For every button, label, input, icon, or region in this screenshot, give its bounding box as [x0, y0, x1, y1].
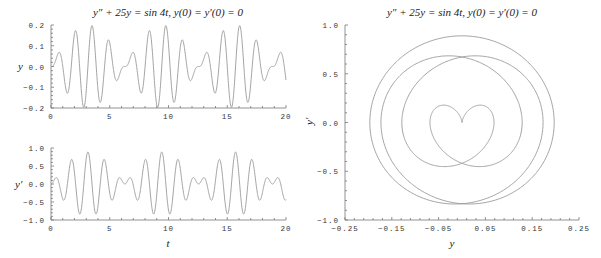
y-axis-label-top: y — [17, 60, 23, 72]
x-axis-label-bottom: t — [166, 237, 170, 249]
y-tick-label: 0.2 — [28, 22, 45, 30]
right-title: y″ + 25y = sin 4t, y(0) = y′(0) = 0 — [386, 6, 538, 19]
y-tick-label: 0.0 — [28, 64, 45, 72]
left-title: y″ + 25y = sin 4t, y(0) = y′(0) = 0 — [92, 6, 244, 19]
y-axis-label-right: y′ — [303, 117, 315, 126]
y-tick-label: −0.2 — [23, 105, 45, 113]
y-tick-label: −0.5 — [23, 199, 45, 207]
x-tick-label: 20 — [280, 225, 291, 233]
x-tick-label: 15 — [222, 225, 233, 233]
x-tick-label: −0.15 — [378, 225, 406, 233]
x-tick-label: 0.25 — [568, 225, 590, 233]
yprime-plot-curve — [51, 152, 286, 214]
y-tick-label: −1.0 — [23, 217, 45, 225]
x-tick-label: 5 — [107, 225, 113, 233]
x-tick-label: 0 — [48, 225, 54, 233]
figure: 0.20.10.0−0.1−0.2051015201.00.50.0−0.5−1… — [0, 0, 601, 258]
phase-plot-curve — [370, 36, 554, 204]
x-tick-label: −0.25 — [331, 225, 359, 233]
y-tick-label: 0.0 — [322, 120, 339, 128]
x-tick-label: 20 — [280, 113, 291, 121]
x-tick-label: 0.15 — [521, 225, 543, 233]
x-tick-label: 5 — [107, 113, 113, 121]
y-tick-label: −1.0 — [317, 217, 339, 225]
y-plot-curve — [51, 26, 286, 108]
y-tick-label: 0.1 — [28, 43, 45, 51]
x-tick-label: 10 — [163, 225, 174, 233]
x-tick-label: 10 — [163, 113, 174, 121]
y-tick-label: −0.5 — [317, 168, 339, 176]
x-tick-label: 0 — [48, 113, 54, 121]
y-tick-label: −0.1 — [23, 84, 45, 92]
x-tick-label: −0.05 — [425, 225, 453, 233]
y-tick-label: 1.0 — [322, 22, 339, 30]
x-axis-label-right: y — [449, 237, 455, 249]
y-tick-label: 0.0 — [28, 181, 45, 189]
x-tick-label: 15 — [222, 113, 233, 121]
y-tick-label: 0.5 — [322, 71, 339, 79]
y-axis-label-bottom: y′ — [14, 178, 23, 190]
y-tick-label: 0.5 — [28, 163, 45, 171]
y-tick-label: 1.0 — [28, 145, 45, 153]
x-tick-label: 0.05 — [474, 225, 496, 233]
